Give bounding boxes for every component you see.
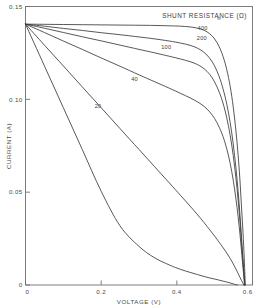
iv-curve-plot: ∞4002001004020 00.050.100.15 00.20.40.6 … bbox=[0, 0, 263, 308]
chart-figure: ∞4002001004020 00.050.100.15 00.20.40.6 … bbox=[0, 0, 263, 308]
x-tick-label: 0.4 bbox=[172, 288, 182, 295]
y-axis-tick-marks bbox=[26, 7, 31, 286]
curve-label-group: ∞4002001004020 bbox=[95, 15, 221, 108]
plot-frame bbox=[26, 7, 253, 286]
x-axis-tick-labels: 00.20.40.6 bbox=[26, 288, 253, 295]
curve-∞ bbox=[26, 24, 246, 285]
x-tick-label: 0.2 bbox=[96, 288, 106, 295]
curve-label-400: 400 bbox=[198, 25, 208, 31]
y-tick-label: 0 bbox=[19, 281, 23, 288]
y-tick-label: 0.15 bbox=[9, 3, 23, 10]
curve-label-100: 100 bbox=[161, 44, 171, 50]
x-axis-tick-marks bbox=[26, 281, 253, 286]
x-axis-title: VOLTAGE (V) bbox=[117, 298, 161, 305]
x-tick-label: 0 bbox=[26, 288, 30, 295]
curve-label-40: 40 bbox=[131, 76, 138, 82]
y-tick-label: 0.05 bbox=[9, 188, 23, 195]
y-tick-label: 0.10 bbox=[9, 96, 23, 103]
curve-400 bbox=[26, 24, 245, 285]
legend-title: SHUNT RESISTANCE (Ω) bbox=[162, 12, 247, 20]
curve-200 bbox=[26, 24, 245, 285]
curve-group bbox=[26, 24, 246, 285]
curve-20 bbox=[26, 24, 238, 285]
y-axis-title: CURRENT (A) bbox=[5, 123, 12, 169]
x-tick-label: 0.6 bbox=[243, 288, 253, 295]
curve-label-20: 20 bbox=[95, 103, 102, 109]
curve-40 bbox=[26, 24, 244, 285]
curve-label-200: 200 bbox=[197, 35, 207, 41]
curve-100 bbox=[26, 24, 245, 285]
